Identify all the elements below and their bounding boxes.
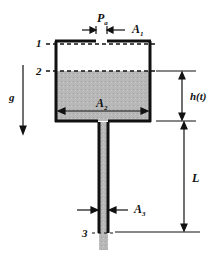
height-label: h(t) bbox=[190, 90, 207, 103]
station-2-label: 2 bbox=[35, 65, 42, 77]
station-3-label: 3 bbox=[81, 227, 88, 239]
length-dimension bbox=[115, 122, 200, 232]
area-top-label: A1 bbox=[131, 22, 144, 38]
gravity-arrow-icon bbox=[20, 65, 26, 134]
pressure-label: Pa bbox=[97, 11, 108, 27]
gravity-label: g bbox=[8, 91, 15, 103]
area-pipe-label: A3 bbox=[133, 202, 146, 218]
length-label: L bbox=[191, 171, 199, 185]
station-1-label: 1 bbox=[36, 37, 42, 49]
vent-area-arrows bbox=[82, 26, 125, 34]
tank-diagram: Pa A1 A2 A3 h(t) L g 1 2 3 bbox=[0, 0, 224, 261]
